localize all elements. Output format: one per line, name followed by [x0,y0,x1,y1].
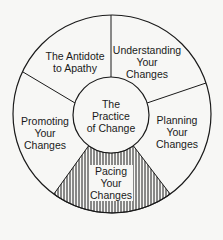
segment-label-line: Your [90,177,132,189]
segment-label-line: Changes [90,189,132,201]
segment-label-line: Changes [21,139,69,151]
center-label: The Practice of Change [87,98,135,134]
divider-upper-left [23,72,75,103]
segment-label-line: to Apathy [46,62,105,74]
segment-label-line: Promoting [21,115,69,127]
segment-label-line: Changes [156,138,198,150]
segment-planning-label: Planning Your Changes [156,114,198,150]
segment-pacing-label: Pacing Your Changes [89,165,133,201]
segment-label-line: Your [156,126,198,138]
segment-understanding-label: Understanding Your Changes [113,44,181,80]
segment-label-line: Pacing [90,165,132,177]
divider-upper-right [147,83,206,103]
segment-promoting-label: Promoting Your Changes [21,115,69,151]
segment-label-line: Your [113,56,181,68]
segment-label-line: The Antidote [46,50,105,62]
segment-label-line: Your [21,127,69,139]
center-label-line: Practice [87,110,135,122]
center-label-line: The [87,98,135,110]
center-label-line: of Change [87,122,135,134]
segment-label-line: Understanding [113,44,181,56]
segment-label-line: Changes [113,68,181,80]
segment-label-line: Planning [156,114,198,126]
segment-antidote-label: The Antidote to Apathy [46,50,105,74]
